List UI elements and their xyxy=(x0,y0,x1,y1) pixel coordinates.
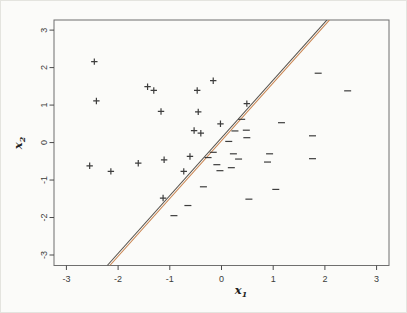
x-axis-tick-label: -3 xyxy=(62,274,70,284)
x-axis-tick-label: 0 xyxy=(219,274,224,284)
x-axis-tick-label: 1 xyxy=(271,274,276,284)
x-axis-tick-label: 3 xyxy=(374,274,379,284)
y-axis-tick-label: -3 xyxy=(39,251,49,259)
plus-marker xyxy=(194,87,200,93)
y-axis-tick-label: 0 xyxy=(39,140,49,145)
plus-marker xyxy=(158,108,164,114)
x-axis-tick-label: 2 xyxy=(322,274,327,284)
plus-marker xyxy=(191,127,197,133)
plus-marker xyxy=(187,153,193,159)
y-axis-tick-label: 1 xyxy=(39,103,49,108)
figure-page: -3-2-10123-3-2-10123x1x2 xyxy=(0,0,407,313)
scatter-plot: -3-2-10123-3-2-10123x1x2 xyxy=(1,1,407,313)
plus-marker xyxy=(217,121,223,127)
y-axis-tick-label: -2 xyxy=(39,214,49,222)
plus-marker xyxy=(91,58,97,64)
plus-marker xyxy=(181,168,187,174)
plus-marker xyxy=(195,109,201,115)
positive-class-markers xyxy=(86,58,250,201)
plus-marker xyxy=(198,130,204,136)
y-axis-label: x2 xyxy=(11,136,27,150)
plus-marker xyxy=(144,84,150,90)
plus-marker xyxy=(135,160,141,166)
plus-marker xyxy=(93,98,99,104)
x-axis-tick-label: -1 xyxy=(166,274,174,284)
orange-decision-boundary xyxy=(110,20,330,266)
black-decision-boundary xyxy=(107,20,327,266)
plus-marker xyxy=(86,163,92,169)
y-axis-tick-label: 3 xyxy=(39,28,49,33)
x-axis-label: x1 xyxy=(234,283,247,299)
plus-marker xyxy=(244,100,250,106)
y-axis-tick-label: -1 xyxy=(39,176,49,184)
decision-boundaries xyxy=(107,20,329,266)
plus-marker xyxy=(161,157,167,163)
plus-marker xyxy=(108,168,114,174)
plus-marker xyxy=(210,78,216,84)
plus-marker xyxy=(151,87,157,93)
plot-box xyxy=(54,20,389,266)
x-axis-tick-label: -2 xyxy=(114,274,122,284)
y-axis-tick-label: 2 xyxy=(39,65,49,70)
